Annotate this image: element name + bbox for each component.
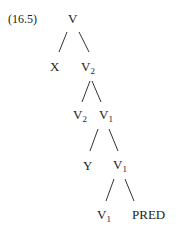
node-v1: V1 — [99, 108, 113, 121]
edge-v1-v1-bottom — [106, 179, 114, 201]
edge-v1-v1 — [109, 129, 118, 151]
edge-v1-pred — [125, 179, 134, 201]
edge-v2-v1 — [92, 81, 101, 102]
node-v1-inner: V1 — [113, 158, 127, 171]
node-v1-leaf: V1 — [97, 208, 111, 221]
node-v2: V2 — [81, 60, 95, 73]
node-y: Y — [83, 159, 92, 172]
edge-root-x — [59, 32, 67, 52]
node-x: X — [50, 60, 59, 73]
tree-edges — [0, 0, 176, 233]
edge-v2-v2 — [82, 81, 90, 102]
node-root: V — [68, 12, 77, 25]
node-v2-child: V2 — [73, 108, 87, 121]
edge-v1-y — [90, 129, 98, 151]
node-pred: PRED — [132, 208, 165, 221]
edge-root-v2 — [79, 32, 89, 52]
